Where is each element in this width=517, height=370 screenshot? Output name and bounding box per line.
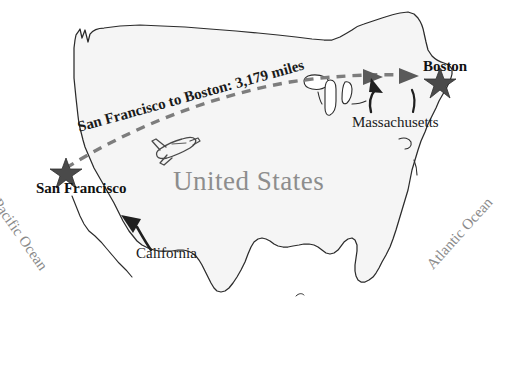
state-label-massachusetts[interactable]: Massachusetts: [352, 115, 439, 130]
state-label-california[interactable]: California: [136, 246, 197, 261]
city-label-boston[interactable]: Boston: [423, 59, 467, 74]
gulf-coast-detail: [296, 294, 304, 296]
us-route-map: San Francisco to Boston: 3,179 miles Uni…: [0, 0, 517, 370]
great-lakes-michigan: [325, 80, 336, 115]
us-landmass: [72, 12, 452, 296]
country-label-united-states: United States: [173, 168, 324, 195]
city-label-san-francisco[interactable]: San Francisco: [36, 181, 126, 196]
us-outline-path: [74, 12, 452, 292]
chesapeake-bay: [414, 160, 417, 175]
